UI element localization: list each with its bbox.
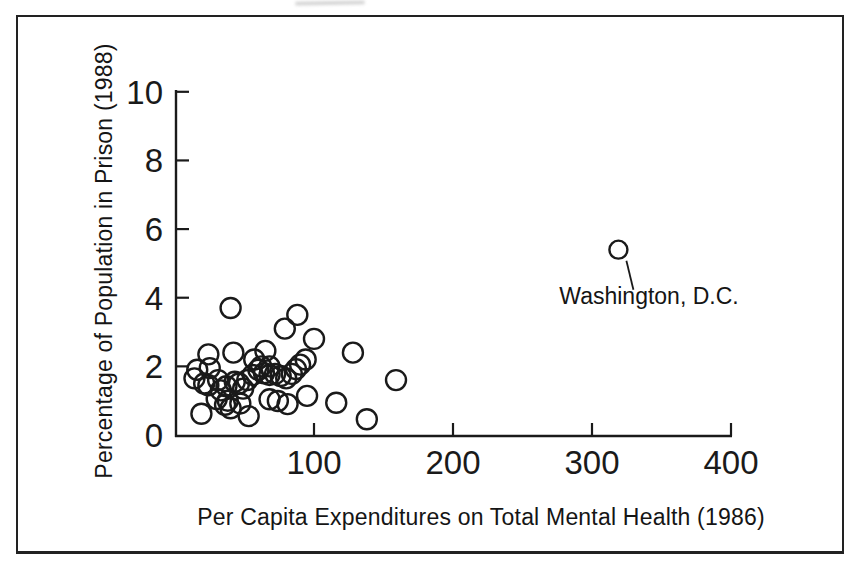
x-axis-title: Per Capita Expenditures on Total Mental … — [197, 504, 765, 531]
data-point — [221, 298, 241, 318]
data-point — [223, 343, 243, 363]
x-tick-label: 400 — [703, 446, 758, 479]
data-point — [191, 404, 211, 424]
y-tick-label: 8 — [145, 144, 163, 177]
data-point — [357, 409, 377, 429]
y-tick-label: 0 — [145, 419, 163, 452]
data-point — [304, 329, 324, 349]
data-point — [343, 343, 363, 363]
scanned-figure-page: Percentage of Population in Prison (1988… — [0, 0, 858, 573]
data-point — [287, 305, 307, 325]
y-tick-label: 4 — [145, 281, 163, 314]
data-point — [386, 370, 406, 390]
washington-dc-annotation-label: Washington, D.C. — [559, 283, 738, 310]
x-tick-label: 300 — [564, 446, 619, 479]
x-tick-label: 200 — [425, 446, 480, 479]
data-point — [275, 319, 295, 339]
data-point — [297, 386, 317, 406]
dc-data-point — [609, 241, 627, 259]
y-tick-label: 2 — [145, 350, 163, 383]
y-tick-label: 10 — [126, 75, 163, 108]
y-axis-title: Percentage of Population in Prison (1988… — [91, 43, 118, 478]
y-tick-label: 6 — [145, 213, 163, 246]
data-point — [326, 393, 346, 413]
x-tick-label: 100 — [286, 446, 341, 479]
